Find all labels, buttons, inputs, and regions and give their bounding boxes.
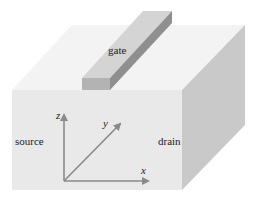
drain-label: drain	[158, 135, 181, 147]
gate-front-face	[82, 78, 110, 90]
source-label: source	[15, 135, 44, 147]
x-axis-label: x	[140, 164, 146, 176]
y-axis-label: y	[102, 117, 108, 129]
z-axis-label: z	[55, 109, 61, 121]
mosfet-diagram: gate source drain z y x	[0, 0, 258, 199]
gate-label: gate	[108, 44, 126, 56]
